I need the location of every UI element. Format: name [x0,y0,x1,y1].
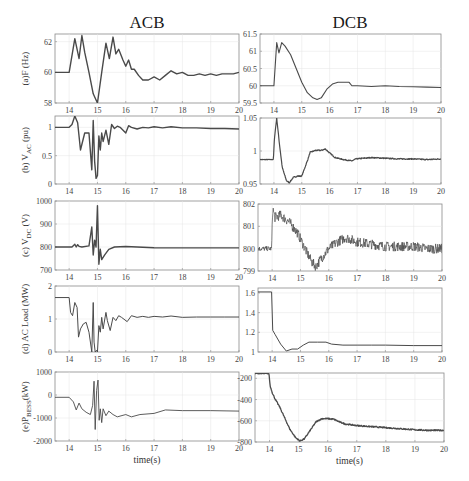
x-tick-label: 16 [324,445,332,454]
x-tick-label: 17 [353,355,361,364]
subplot-c-dcb: 14151617181920799800801802 [243,200,446,283]
x-tick-label: 20 [440,445,448,454]
x-tick-label: 16 [325,274,333,283]
y-tick-label: 800 [243,245,255,254]
x-tick-label: 18 [382,445,390,454]
x-tick-label: 20 [438,274,446,283]
x-tick-label: 16 [122,106,130,115]
y-tick-label: 1.6 [245,289,255,298]
x-tick-label: 20 [235,355,243,364]
y-tick-label: -400 [237,396,252,405]
y-axis-label: (b) VAC (pu) [20,127,33,173]
subplot-b-acb: 1415161718192000.51(b) VAC (pu) [20,116,243,196]
x-tick-label: 14 [65,273,73,282]
x-tick-label: 14 [266,445,274,454]
subplot-grid: 14151617181920586062(a)F (Hz)14151617181… [20,30,448,467]
y-tick-label: 1.2 [245,328,255,337]
plot-area [258,204,442,271]
plot-area [55,116,239,184]
x-tick-label: 17 [353,274,361,283]
y-tick-label: 60.5 [243,65,257,74]
y-tick-label: 1000 [36,368,52,377]
x-tick-label: 14 [65,106,73,115]
x-tick-label: 17 [150,106,158,115]
x-tick-label: 19 [207,355,215,364]
x-tick-label: 19 [411,445,419,454]
column-title-acb: ACB [130,13,165,32]
x-tick-label: 16 [122,187,130,196]
y-tick-label: 61.5 [243,30,257,39]
x-tick-label: 14 [65,187,73,196]
x-tick-label: 16 [326,106,334,115]
y-tick-label: 0 [48,391,52,400]
plot-area [55,201,239,270]
x-tick-label: 16 [325,355,333,364]
x-tick-label: 17 [150,273,158,282]
y-tick-label: 802 [243,200,255,209]
y-axis-label: (a)F (Hz) [20,52,30,86]
subplot-c-acb: 141516171819207008009001000(c) VDC (V) [20,197,243,282]
x-tick-label: 17 [150,444,158,453]
y-tick-label: 59.5 [243,99,257,108]
x-tick-label: 16 [122,355,130,364]
x-axis-label: time(s) [336,456,363,467]
y-tick-label: -200 [237,374,252,383]
plot-area [55,372,239,441]
x-axis-label: time(s) [134,455,161,466]
x-tick-label: 14 [65,355,73,364]
x-tick-label: 15 [93,273,101,282]
x-tick-label: 17 [353,106,361,115]
y-axis-label: (c) VDC (V) [20,214,33,257]
x-tick-label: 16 [326,187,334,196]
x-tick-label: 15 [298,187,306,196]
x-tick-label: 18 [381,187,389,196]
x-tick-label: 18 [178,444,186,453]
x-tick-label: 20 [235,273,243,282]
y-tick-label: -2000 [33,437,52,446]
x-tick-label: 18 [178,187,186,196]
y-tick-label: 799 [243,267,255,276]
plot-area [258,288,442,352]
y-tick-label: 900 [40,220,52,229]
subplot-e-acb: 14151617181920-2000-100001000(e)PBESS(kW… [20,368,243,466]
y-tick-label: 700 [40,266,52,275]
column-title-dcb: DCB [333,13,368,32]
y-tick-label: 0.5 [42,152,52,161]
x-tick-label: 15 [93,444,101,453]
plot-area [255,373,444,442]
x-tick-label: 18 [178,273,186,282]
x-tick-label: 19 [409,187,417,196]
subplot-e-dcb: 14151617181920-800-600-400-200time(s) [237,373,448,467]
y-tick-label: 61 [249,47,257,56]
x-tick-label: 19 [207,106,215,115]
subplot-d-dcb: 1415161718192011.21.41.6 [245,288,446,364]
x-tick-label: 15 [93,187,101,196]
y-tick-label: 1 [251,348,255,357]
x-tick-label: 20 [235,106,243,115]
x-tick-label: 15 [93,106,101,115]
y-tick-label: 1000 [36,197,52,206]
y-tick-label: 1 [48,123,52,132]
plot-area [55,34,239,103]
y-tick-label: 800 [40,243,52,252]
y-tick-label: 1.05 [243,114,257,123]
y-tick-label: 801 [243,222,255,231]
x-tick-label: 17 [353,445,361,454]
y-tick-label: 0 [48,180,52,189]
y-tick-label: -600 [237,417,252,426]
x-tick-label: 15 [93,355,101,364]
x-tick-label: 20 [235,187,243,196]
y-tick-label: 2 [48,282,52,291]
y-tick-label: 0 [48,348,52,357]
x-tick-label: 15 [296,274,304,283]
x-tick-label: 16 [122,444,130,453]
x-tick-label: 19 [409,106,417,115]
y-axis-label: (e)PBESS(kW) [20,381,33,432]
x-tick-label: 18 [178,355,186,364]
y-tick-label: 58 [44,99,52,108]
y-tick-label: 62 [44,38,52,47]
x-tick-label: 17 [353,187,361,196]
x-tick-label: 14 [270,106,278,115]
subplot-a-dcb: 1415161718192059.56060.56161.5 [243,30,445,115]
x-tick-label: 14 [268,355,276,364]
